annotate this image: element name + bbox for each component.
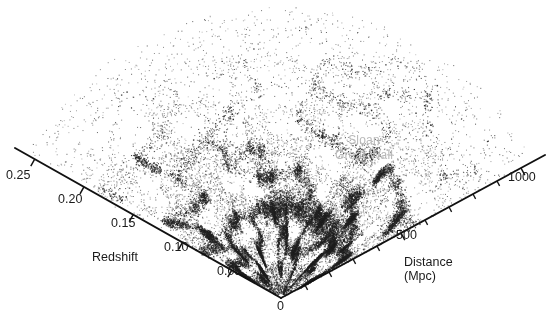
apex-zero-label: 0 — [277, 299, 284, 313]
redshift-axis-title: Redshift — [92, 250, 138, 264]
distance-tick-label-1000: 1000 — [508, 170, 536, 184]
axes-layer — [0, 0, 555, 322]
redshift-tick-label-0.25: 0.25 — [6, 168, 30, 182]
distance-axis-title-line1: Distance — [404, 255, 453, 269]
distance-axis-title-line2: (Mpc) — [404, 269, 453, 283]
redshift-tick-label-0.05: 0.05 — [217, 264, 241, 278]
figure-root: 0.25 0.20 0.15 0.10 0.05 0 500 1000 Reds… — [0, 0, 555, 322]
distance-tick-label-500: 500 — [396, 228, 417, 242]
redshift-tick-label-0.15: 0.15 — [111, 216, 135, 230]
redshift-tick-label-0.20: 0.20 — [58, 192, 82, 206]
distance-axis-title: Distance (Mpc) — [404, 255, 453, 284]
redshift-tick-label-0.10: 0.10 — [164, 240, 188, 254]
